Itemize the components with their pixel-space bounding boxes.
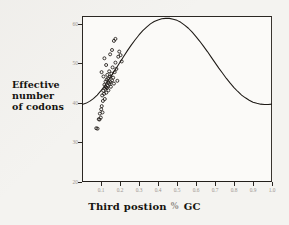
y-axis-tick-label: 60 <box>66 21 78 27</box>
scatter-point <box>109 53 112 56</box>
scatter-point <box>114 61 117 64</box>
x-axis-tick-label: 0.8 <box>231 187 238 193</box>
scatter-point <box>109 85 112 88</box>
x-axis-tick <box>177 182 178 186</box>
y-axis-tick-label: 40 <box>66 100 78 106</box>
scatter-point <box>103 98 106 101</box>
x-axis-tick <box>139 182 140 186</box>
x-axis-title: Third postion % GC <box>0 201 289 212</box>
scatter-point <box>111 48 114 51</box>
x-axis-tick-label: 0.5 <box>174 187 181 193</box>
x-axis-title-text: Third postion % GC <box>88 201 200 212</box>
scatter-point <box>103 57 106 60</box>
scatter-points-layer <box>95 37 123 130</box>
x-axis-tick <box>101 182 102 186</box>
x-axis-tick <box>196 182 197 186</box>
x-axis-tick-label: 1.0 <box>269 187 276 193</box>
y-axis-tick <box>78 182 82 183</box>
enc-plot-figure: Effective number of codons 0.10.20.30.40… <box>0 0 289 225</box>
scatter-point <box>100 71 103 74</box>
scatter-point <box>112 82 115 85</box>
x-axis-tick <box>234 182 235 186</box>
x-axis-tick <box>253 182 254 186</box>
x-axis-tick-label: 0.4 <box>155 187 162 193</box>
y-axis-tick-label: 20 <box>66 179 78 185</box>
x-axis-tick <box>120 182 121 186</box>
scatter-point <box>102 75 105 78</box>
expected-enc-curve <box>82 18 272 104</box>
x-axis-tick-label: 0.6 <box>193 187 200 193</box>
y-axis-tick-label: 30 <box>66 139 78 145</box>
scatter-point <box>112 76 115 79</box>
percent-symbol: % <box>171 202 179 211</box>
scatter-point <box>100 108 103 111</box>
x-axis-tick <box>158 182 159 186</box>
y-axis-tick <box>78 24 82 25</box>
x-axis-tick-label: 0.1 <box>98 187 105 193</box>
y-axis-tick <box>78 63 82 64</box>
y-axis-tick-label: 50 <box>66 60 78 66</box>
figure-page: Effective number of codons 0.10.20.30.40… <box>0 0 289 225</box>
x-axis-tick <box>215 182 216 186</box>
scatter-point <box>105 64 108 67</box>
scatter-point <box>111 66 114 69</box>
expected-curve-layer <box>82 18 272 104</box>
plot-canvas <box>82 16 272 182</box>
x-axis-tick-label: 0.9 <box>250 187 257 193</box>
y-axis-tick <box>78 103 82 104</box>
y-axis-title-line-1: Effective <box>12 79 78 90</box>
y-axis-title: Effective number of codons <box>12 79 78 112</box>
plot-svg <box>82 16 272 182</box>
scatter-point <box>118 50 121 53</box>
x-axis-tick-label: 0.7 <box>212 187 219 193</box>
x-axis-tick-label: 0.3 <box>136 187 143 193</box>
x-axis-tick <box>272 182 273 186</box>
scatter-point <box>106 73 109 76</box>
scatter-point <box>119 54 122 57</box>
plot-area: 0.10.20.30.40.50.60.70.80.91.02030405060 <box>82 16 272 182</box>
scatter-point <box>116 79 119 82</box>
x-axis-tick-label: 0.2 <box>117 187 124 193</box>
scatter-point <box>100 105 103 108</box>
scatter-point <box>107 89 110 92</box>
scatter-point <box>101 111 104 114</box>
y-axis-tick <box>78 142 82 143</box>
